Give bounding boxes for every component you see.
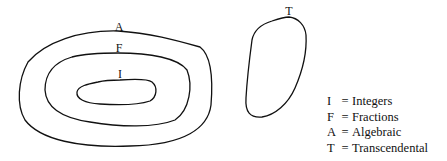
- legend-name: Algebraic: [352, 125, 401, 139]
- legend-item-integers: I=Integers: [327, 94, 428, 110]
- integers-region: [77, 79, 156, 104]
- legend-key: T: [327, 141, 338, 157]
- legend-name: Transcendental: [352, 141, 428, 155]
- label-integers: I: [118, 67, 122, 81]
- legend: I=Integers F=Fractions A=Algebraic T=Tra…: [327, 94, 428, 156]
- label-fractions: F: [116, 41, 123, 55]
- transcendental-region: [246, 17, 306, 117]
- legend-equals: =: [338, 125, 352, 141]
- legend-item-algebraic: A=Algebraic: [327, 125, 428, 141]
- legend-item-transcendental: T=Transcendental: [327, 141, 428, 157]
- legend-equals: =: [338, 94, 352, 110]
- label-transcendental: T: [285, 4, 293, 18]
- legend-equals: =: [338, 141, 352, 157]
- legend-key: F: [327, 110, 338, 126]
- label-algebraic: A: [115, 20, 124, 34]
- legend-item-fractions: F=Fractions: [327, 110, 428, 126]
- legend-key: A: [327, 125, 338, 141]
- legend-equals: =: [338, 110, 352, 126]
- legend-name: Fractions: [352, 110, 399, 124]
- fractions-region: [45, 53, 190, 126]
- legend-name: Integers: [352, 94, 392, 108]
- legend-key: I: [327, 94, 338, 110]
